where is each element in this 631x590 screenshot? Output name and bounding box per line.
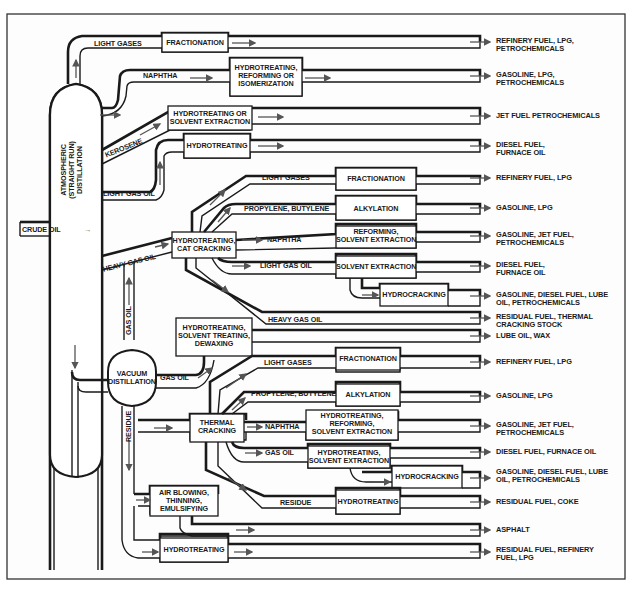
stream-gas-oil-3: GAS OIL	[265, 449, 294, 457]
output-product-3: JET FUEL PETROCHEMICALS	[496, 112, 600, 120]
stream-propylene-butylene-2: PROPYLENE, BUTYLENE	[251, 390, 336, 398]
hydrotreating-cat-cracking-label: HYDROTREATING, CAT CRACKING	[172, 237, 236, 253]
reforming-solvent-label: REFORMING, SOLVENT EXTRACTION	[336, 228, 416, 244]
fractionation-1-label: FRACTIONATION	[162, 39, 228, 47]
stream-light-gases-3: LIGHT GASES	[264, 359, 312, 367]
vacuum-distillation-label: VACUUM DISTILLATION	[108, 370, 156, 386]
hydrocracking-2-label: HYDROCRACKING	[392, 473, 462, 481]
hydrotreating-or-solvent-label: HYDROTREATING OR SOLVENT EXTRACTION	[168, 110, 252, 126]
output-product-1: REFINERY FUEL, LPG,PETROCHEMICALS	[496, 37, 574, 53]
stream-light-gas-oil-2: LIGHT GAS OIL	[260, 262, 312, 270]
hydrotreating-2-label: HYDROTREATING	[336, 498, 400, 506]
hydrotreating-solvent-2-label: HYDROTREATING, SOLVENT EXTRACTION	[308, 449, 390, 465]
hydrotreating-1-label: HYDROTREATING	[184, 142, 250, 150]
output-product-16: GASOLINE, DIESEL FUEL, LUBEOIL, PETROCHE…	[496, 468, 608, 484]
output-product-17: RESIDUAL FUEL, COKE	[496, 498, 579, 506]
output-product-4: DIESEL FUEL,FURNACE OIL	[496, 141, 545, 157]
output-product-10: RESIDUAL FUEL, THERMALCRACKING STOCK	[496, 313, 593, 329]
stream-naphtha-1: NAPHTHA	[143, 72, 177, 80]
output-product-2: GASOLINE, LPG,PETROCHEMICALS	[496, 71, 564, 87]
output-product-14: GASOLINE, JET FUEL,PETROCHEMICALS	[496, 421, 574, 437]
thermal-cracking-label: THERMAL CRACKING	[190, 419, 244, 435]
hydrotreating-solvent-dewaxing-label: HYDROTREATING, SOLVENT TREATING, DEWAXIN…	[176, 324, 252, 348]
hydrotreating-3-label: HYDROTREATING	[160, 546, 228, 554]
hydrotreating-reforming-label: HYDROTREATING, REFORMING OR ISOMERIZATIO…	[230, 64, 302, 88]
output-product-19: RESIDUAL FUEL, REFINERYFUEL, LPG	[496, 546, 594, 562]
output-product-5: REFINERY FUEL, LPG	[496, 174, 572, 182]
stream-propylene-butylene-1: PROPYLENE, BUTYLENE	[244, 205, 329, 213]
crude-oil-arrow-icon: →	[84, 226, 91, 234]
stream-residue-vertical: RESIDUE	[125, 411, 133, 442]
stream-light-gas-oil-1: LIGHT GAS OIL	[103, 190, 155, 198]
output-product-7: GASOLINE, JET FUEL,PETROCHEMICALS	[496, 231, 574, 247]
output-product-15: DIESEL FUEL, FURNACE OIL	[496, 448, 596, 456]
fractionation-2-label: FRACTIONATION	[336, 175, 416, 183]
crude-oil-label: CRUDE OIL	[22, 226, 61, 234]
stream-light-gases-1: LIGHT GASES	[94, 40, 142, 48]
atmospheric-column-label: ATMOSPHERIC (STRAIGHT RUN) DISTILLATION	[60, 115, 84, 225]
output-product-18: ASPHALT	[496, 526, 530, 534]
stream-gas-oil-vacuum: GAS OIL	[160, 374, 189, 382]
alkylation-2-label: ALKYLATION	[336, 391, 400, 399]
output-product-11: LUBE OIL, WAX	[496, 332, 550, 340]
output-product-6: GASOLINE, LPG	[496, 204, 553, 212]
stream-residue-3: RESIDUE	[280, 499, 311, 507]
stream-heavy-gas-oil-2: HEAVY GAS OIL	[268, 316, 322, 324]
output-product-9: GASOLINE, DIESEL FUEL, LUBEOIL, PETROCHE…	[496, 291, 608, 307]
output-product-8: DIESEL FUEL,FURNACE OIL	[496, 261, 545, 277]
air-blowing-label: AIR BLOWING, THINNING, EMULSIFYING	[150, 489, 218, 513]
output-product-12: REFINERY FUEL, LPG	[496, 358, 572, 366]
alkylation-1-label: ALKYLATION	[336, 205, 416, 213]
fractionation-3-label: FRACTIONATION	[336, 355, 400, 363]
hydrocracking-1-label: HYDROCRACKING	[380, 291, 448, 299]
stream-gas-oil-riser: GAS OIL	[125, 306, 133, 335]
solvent-extraction-label: SOLVENT EXTRACTION	[336, 263, 416, 271]
stream-light-gases-2: LIGHT GASES	[262, 174, 310, 182]
hydrotreating-reforming-solvent-label: HYDROTREATING, REFORMING, SOLVENT EXTRAC…	[306, 412, 398, 436]
stream-naphtha-3: NAPHTHA	[265, 423, 299, 431]
output-product-13: GASOLINE, LPG	[496, 392, 553, 400]
stream-naphtha-2: NAPHTHA	[267, 236, 301, 244]
